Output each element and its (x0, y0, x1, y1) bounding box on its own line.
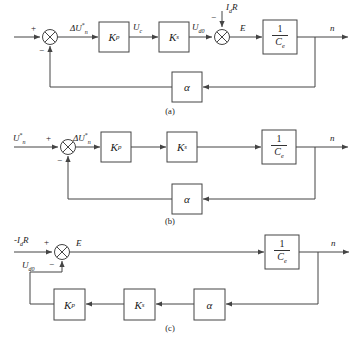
diagram-b-error-signal-label: ΔU*n (73, 132, 91, 145)
diagram-a-disturbance-label: IdR (226, 3, 238, 14)
diagram-c-feedback-signal-label: Ud0 (22, 261, 35, 272)
diagram-b-block-kp: Kp (101, 132, 131, 162)
diagram-c-disturbance-input-label: -IdR (14, 236, 29, 247)
diagram-a-input-plus-sign: + (31, 24, 36, 33)
diagram-c-input-plus-sign: + (44, 238, 49, 247)
diagram-b-feedback-minus-sign: − (57, 156, 62, 165)
diagram-a-block-ks: Ks (159, 22, 189, 52)
diagram-b-input-plus-sign: + (46, 134, 51, 143)
diagram-b-block-one-over-ce: 1Ce (262, 130, 296, 164)
diagram-a-back-emf-label: E (240, 24, 246, 33)
diagram-b-block-alpha: α (172, 184, 202, 214)
diagram-a-block-one-over-ce: 1Ce (263, 20, 297, 54)
diagram-a-output-speed-label: n (330, 24, 335, 33)
diagram-a-control-voltage-label: Uc (133, 23, 142, 34)
diagram-a-converter-output-label: Ud0 (192, 23, 205, 34)
diagram-a-block-kp: Kp (99, 22, 129, 52)
diagram-a-disturbance-minus-sign: − (211, 13, 216, 22)
diagram-b-reference-input-label: U*n (13, 132, 26, 145)
diagram-c-block-alpha: α (194, 289, 225, 320)
diagram-a-block-alpha: α (172, 72, 202, 102)
diagram-c-feedback-minus-sign: − (49, 260, 54, 269)
diagram-c-block-kp: Kp (54, 289, 85, 320)
diagram-a-caption: (a) (150, 106, 190, 116)
diagram-c-block-one-over-ce: 1Ce (265, 235, 299, 269)
diagram-b-caption: (b) (150, 216, 190, 226)
diagram-c-back-emf-label: E (76, 239, 82, 248)
diagram-a-error-signal-label: ΔU*n (70, 22, 88, 35)
diagram-c-block-ks: Ks (124, 289, 155, 320)
diagram-a-feedback-minus-sign: − (39, 46, 44, 55)
diagram-b-block-ks: Ks (167, 132, 197, 162)
diagram-c-caption: (c) (150, 323, 190, 333)
diagram-c-output-speed-label: n (331, 239, 336, 248)
figure-canvas: + − ΔU*n Kp Uc Ks Ud0 − IdR E 1Ce n α (a… (0, 0, 361, 345)
diagram-b-output-speed-label: n (330, 134, 335, 143)
